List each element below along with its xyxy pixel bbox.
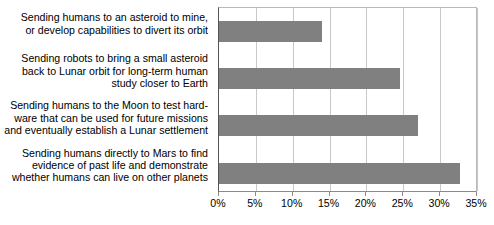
- x-axis-tick-label: 5%: [247, 197, 262, 210]
- x-axis-tick-label: 30%: [429, 197, 450, 210]
- category-axis-labels: Sending humans to an asteroid to mine, o…: [0, 0, 214, 192]
- x-axis-tick-labels: 0%5%10%15%20%25%30%35%: [0, 197, 494, 215]
- bar: [219, 115, 418, 136]
- plot-area: [218, 7, 477, 192]
- x-axis-tick-label: 35%: [465, 197, 486, 210]
- x-axis-tick-label: 0%: [210, 197, 225, 210]
- category-label: Sending humans to the Moon to test hard-…: [0, 99, 208, 136]
- horizontal-bar-chart: Sending humans to an asteroid to mine, o…: [0, 0, 494, 225]
- category-label: Sending humans to an asteroid to mine, o…: [0, 11, 208, 36]
- bar: [219, 68, 400, 89]
- x-axis-tick: [218, 192, 219, 196]
- bar-series: [219, 8, 476, 191]
- x-axis-tick: [476, 192, 477, 196]
- category-label: Sending robots to bring a small asteroid…: [0, 52, 208, 89]
- x-axis-tick: [439, 192, 440, 196]
- x-axis-tick-label: 15%: [318, 197, 339, 210]
- gridline: [477, 8, 478, 191]
- x-axis-tick: [255, 192, 256, 196]
- bar: [219, 21, 322, 42]
- x-axis-tick: [365, 192, 366, 196]
- x-axis-tick-label: 10%: [281, 197, 302, 210]
- bar: [219, 163, 460, 184]
- x-axis-tick: [292, 192, 293, 196]
- x-axis-tick: [402, 192, 403, 196]
- category-label: Sending humans directly to Mars to find …: [0, 147, 208, 184]
- x-axis-tick-label: 20%: [355, 197, 376, 210]
- x-axis-tick-label: 25%: [392, 197, 413, 210]
- x-axis-tick: [329, 192, 330, 196]
